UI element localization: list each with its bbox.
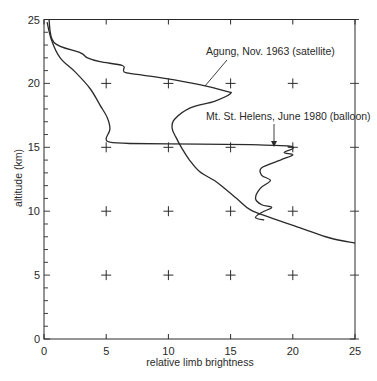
- y-tick-label: 0: [34, 333, 40, 345]
- x-tick-label: 0: [41, 345, 47, 357]
- x-tick-label: 25: [349, 345, 361, 357]
- plot-border: [44, 20, 355, 340]
- y-axis-label: altitude (km): [12, 149, 24, 207]
- annotation-agung: Agung, Nov. 1963 (satellite): [206, 45, 335, 57]
- plot-frame: [44, 20, 355, 340]
- chart: 0510152025 0510152025 relative limb brig…: [0, 0, 377, 381]
- y-tick-label: 15: [28, 141, 40, 153]
- y-tick-labels: 0510152025: [28, 14, 40, 346]
- axis-ticks: [44, 20, 359, 340]
- y-tick-label: 5: [34, 269, 40, 281]
- annotation-agung-arrow: [205, 60, 227, 86]
- arrowhead-icon: [271, 141, 277, 147]
- y-tick-label: 10: [28, 205, 40, 217]
- y-tick-label: 20: [28, 77, 40, 89]
- annotation-sthelens: Mt. St. Helens, June 1980 (balloon): [206, 110, 371, 122]
- y-tick-label: 25: [28, 14, 40, 26]
- x-tick-label: 5: [103, 345, 109, 357]
- x-axis-label: relative limb brightness: [146, 356, 253, 368]
- x-tick-label: 20: [287, 345, 299, 357]
